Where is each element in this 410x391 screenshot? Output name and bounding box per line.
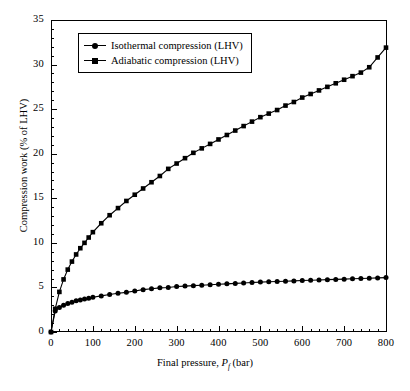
y-tick-major <box>51 243 57 244</box>
x-tick-major <box>260 326 261 332</box>
x-tick-minor <box>269 329 270 332</box>
y-tick-minor <box>51 172 54 173</box>
x-tick-minor <box>85 329 86 332</box>
legend: Isothermal compression (LHV) Adiabatic c… <box>78 33 252 73</box>
y-tick-minor <box>51 314 54 315</box>
y-tick-major <box>51 198 57 199</box>
x-tick-minor <box>327 329 328 332</box>
x-axis-title-prefix: Final pressure, <box>157 357 221 368</box>
y-tick-minor <box>51 207 54 208</box>
x-tick-minor <box>118 329 119 332</box>
x-tick-minor <box>185 329 186 332</box>
legend-item-isothermal: Isothermal compression (LHV) <box>84 38 243 53</box>
y-tick-major <box>51 65 57 66</box>
x-tick-minor <box>227 329 228 332</box>
y-tick-minor <box>51 180 54 181</box>
legend-item-adiabatic: Adiabatic compression (LHV) <box>84 53 243 68</box>
top-axis-spine <box>51 20 387 21</box>
y-tick-minor <box>51 29 54 30</box>
y-tick-major <box>51 287 57 288</box>
x-tick-minor <box>101 329 102 332</box>
right-axis-spine <box>386 20 387 332</box>
legend-label-adiabatic: Adiabatic compression (LHV) <box>111 55 239 66</box>
y-tick-minor <box>51 91 54 92</box>
y-tick-major <box>51 109 57 110</box>
y-tick-minor <box>51 163 54 164</box>
legend-marker-square-icon <box>84 56 106 66</box>
x-tick-minor <box>68 329 69 332</box>
x-tick-minor <box>235 329 236 332</box>
y-tick-minor <box>51 118 54 119</box>
y-tick-minor <box>51 56 54 57</box>
x-tick-minor <box>126 329 127 332</box>
legend-marker-circle-icon <box>84 41 106 51</box>
x-tick-minor <box>202 329 203 332</box>
x-tick-minor <box>311 329 312 332</box>
x-tick-minor <box>319 329 320 332</box>
y-tick-minor <box>51 38 54 39</box>
y-tick-minor <box>51 305 54 306</box>
y-tick-major <box>51 332 57 333</box>
x-tick-minor <box>59 329 60 332</box>
y-axis-title: Compression work (% of LHV) <box>18 46 29 286</box>
x-tick-minor <box>252 329 253 332</box>
y-tick-minor <box>51 189 54 190</box>
x-tick-minor <box>210 329 211 332</box>
x-axis-title-suffix: (bar) <box>230 357 253 368</box>
y-tick-label: 35 <box>14 13 44 24</box>
x-tick-minor <box>361 329 362 332</box>
x-tick-major <box>344 326 345 332</box>
x-tick-major <box>93 326 94 332</box>
x-tick-minor <box>168 329 169 332</box>
x-tick-minor <box>110 329 111 332</box>
y-tick-minor <box>51 270 54 271</box>
x-tick-minor <box>369 329 370 332</box>
y-tick-minor <box>51 127 54 128</box>
x-tick-major <box>135 326 136 332</box>
y-tick-minor <box>51 145 54 146</box>
x-tick-minor <box>286 329 287 332</box>
y-tick-label: 0 <box>14 325 44 336</box>
y-tick-minor <box>51 216 54 217</box>
y-tick-minor <box>51 296 54 297</box>
x-tick-major <box>219 326 220 332</box>
figure-container: 010020030040050060070080005101520253035 … <box>0 0 410 391</box>
y-tick-major <box>51 20 57 21</box>
x-tick-minor <box>336 329 337 332</box>
x-tick-major <box>177 326 178 332</box>
x-tick-minor <box>378 329 379 332</box>
x-tick-major <box>386 326 387 332</box>
x-axis-title: Final pressure, Pf (bar) <box>0 357 410 371</box>
y-tick-minor <box>51 73 54 74</box>
x-tick-minor <box>277 329 278 332</box>
y-tick-minor <box>51 234 54 235</box>
x-tick-minor <box>244 329 245 332</box>
legend-label-isothermal: Isothermal compression (LHV) <box>111 40 243 51</box>
x-tick-label: 800 <box>356 337 410 348</box>
x-tick-minor <box>193 329 194 332</box>
y-tick-minor <box>51 261 54 262</box>
y-tick-minor <box>51 225 54 226</box>
y-tick-minor <box>51 100 54 101</box>
x-tick-minor <box>143 329 144 332</box>
y-tick-major <box>51 154 57 155</box>
y-tick-minor <box>51 279 54 280</box>
x-tick-minor <box>294 329 295 332</box>
x-tick-minor <box>160 329 161 332</box>
y-tick-minor <box>51 136 54 137</box>
x-tick-major <box>302 326 303 332</box>
y-tick-minor <box>51 252 54 253</box>
y-tick-minor <box>51 47 54 48</box>
x-tick-minor <box>76 329 77 332</box>
y-tick-minor <box>51 82 54 83</box>
x-tick-minor <box>353 329 354 332</box>
x-tick-minor <box>152 329 153 332</box>
y-tick-minor <box>51 323 54 324</box>
